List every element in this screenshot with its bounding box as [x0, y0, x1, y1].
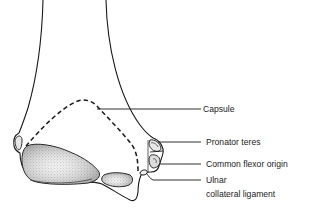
- label-ulnar: Ulnar: [206, 175, 227, 185]
- label-common-flexor-origin: Common flexor origin: [206, 159, 288, 169]
- label-collateral-ligament: collateral ligament: [206, 189, 275, 199]
- label-pronator-teres: Pronator teres: [206, 137, 260, 147]
- humerus-diagram: [0, 0, 313, 208]
- ulnar-collateral-ligament-attachment: [140, 170, 147, 175]
- lateral-epicondyle-facet: [15, 136, 22, 150]
- common-flexor-attachment: [149, 155, 160, 168]
- label-capsule: Capsule: [203, 104, 235, 114]
- leader-ulnar-collateral-ligament: [146, 173, 201, 180]
